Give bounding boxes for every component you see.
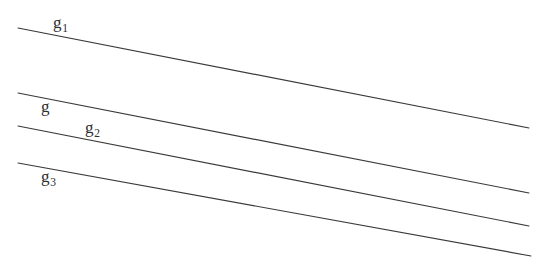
label-g-base: g: [41, 97, 50, 116]
line-g3: [18, 163, 531, 256]
label-g1-base: g: [53, 13, 62, 32]
label-g1: g1: [53, 14, 67, 31]
line-g2: [18, 126, 529, 226]
label-g1-subscript: 1: [62, 22, 68, 34]
label-g2-subscript: 2: [94, 127, 100, 139]
label-g3: g3: [41, 168, 55, 185]
label-g3-base: g: [41, 167, 50, 186]
label-g2-base: g: [85, 118, 94, 137]
line-g1: [18, 28, 529, 128]
figure-canvas: g1 g g2 g3: [0, 0, 548, 265]
label-g2: g2: [85, 119, 99, 136]
line-g: [18, 93, 529, 193]
label-g3-subscript: 3: [50, 176, 56, 188]
label-g: g: [41, 98, 50, 115]
line-group: [0, 0, 548, 265]
